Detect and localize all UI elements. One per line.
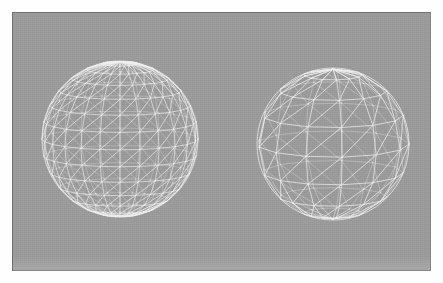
- screenshot-root: [0, 0, 443, 283]
- wireframe-canvas: [13, 13, 430, 270]
- sphere-low-resolution: [257, 68, 409, 220]
- render-viewport[interactable]: [12, 12, 431, 271]
- sphere-high-resolution: [42, 61, 198, 217]
